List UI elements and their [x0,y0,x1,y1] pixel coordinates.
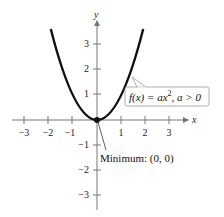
y-tick-label: 1 [84,88,89,99]
y-tick-label: 3 [84,38,89,49]
x-tick-label: 1 [119,127,124,138]
formula-label: f(x) = ax2, a > 0 [129,89,202,104]
y-tick-label: −1 [78,139,89,150]
x-tick-label: −3 [19,127,30,138]
x-tick-label: 2 [143,127,148,138]
y-tick-label: −3 [78,189,89,200]
formula-callout-pointer [132,77,146,87]
y-tick-label: 2 [84,63,89,74]
x-tick-label: −2 [43,127,54,138]
minimum-label: Minimum: (0, 0) [100,152,174,165]
y-axis-label: y [93,9,99,20]
x-tick-label: 3 [167,127,172,138]
minimum-leader-line [98,122,106,150]
y-tick-label: −2 [78,164,89,175]
x-tick-label: −1 [65,127,76,138]
parabola-chart: −3 −2 −1 1 2 3 3 2 1 −1 −2 −3 x y Minimu… [0,0,224,217]
x-axis-label: x [191,114,197,125]
minimum-point [94,117,100,123]
